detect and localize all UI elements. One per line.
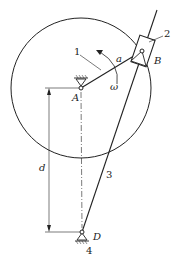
label-slider-2: 2 — [164, 28, 170, 39]
label-crank-a: a — [116, 53, 122, 64]
omega-arrowhead — [96, 50, 103, 55]
dim-arrow-top — [47, 88, 51, 95]
label-link-1: 1 — [74, 46, 80, 57]
label-frame-4: 4 — [86, 245, 92, 256]
label-link-3: 3 — [106, 169, 112, 180]
dim-arrow-bottom — [47, 225, 51, 232]
label-point-B: B — [153, 55, 161, 66]
label-distance-d: d — [39, 162, 45, 173]
center-line — [81, 92, 82, 228]
joint-B — [140, 49, 144, 53]
mechanism-diagram: 1 2 3 4 A B D a ω d — [0, 0, 179, 260]
label-point-D: D — [92, 231, 101, 242]
leader-1 — [80, 55, 101, 70]
label-omega: ω — [110, 81, 118, 92]
omega-arc — [100, 52, 117, 84]
label-point-A: A — [71, 92, 79, 103]
